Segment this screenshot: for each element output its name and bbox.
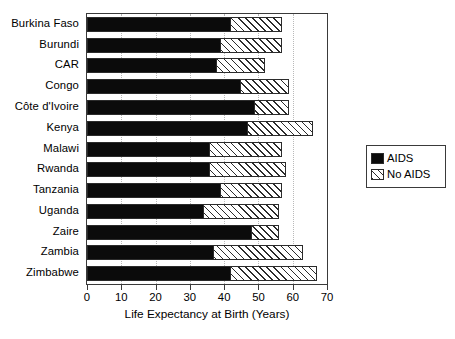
bar-group xyxy=(87,17,327,32)
legend-item-no-aids: No AIDS xyxy=(371,167,440,182)
chart-figure: Burkina FasoBurundiCARCongoCôte d'Ivoire… xyxy=(0,0,455,339)
x-axis-tick-label: 40 xyxy=(218,291,231,304)
x-axis-tick xyxy=(87,285,88,290)
bar-aids xyxy=(87,266,231,281)
bar-group xyxy=(87,100,327,115)
x-axis-tick xyxy=(190,285,191,290)
hatched-swatch-icon xyxy=(371,169,384,180)
bar-group xyxy=(87,142,327,157)
bar-aids xyxy=(87,17,231,32)
plot-inner xyxy=(87,14,327,284)
y-axis-tick-label: Rwanda xyxy=(37,162,79,175)
y-axis-labels: Burkina FasoBurundiCARCongoCôte d'Ivoire… xyxy=(0,13,83,285)
x-axis-tick-label: 20 xyxy=(149,291,162,304)
y-axis-tick-label: Kenya xyxy=(46,121,79,134)
bar-group xyxy=(87,225,327,240)
y-axis-tick-label: Uganda xyxy=(39,204,79,217)
bar-group xyxy=(87,183,327,198)
x-axis-title: Life Expectancy at Birth (Years) xyxy=(86,307,328,321)
y-axis-tick-label: Congo xyxy=(45,79,79,92)
bar-group xyxy=(87,266,327,281)
plot-area xyxy=(86,13,328,285)
y-axis-tick-label: Tanzania xyxy=(33,183,79,196)
x-axis-tick-label: 50 xyxy=(252,291,265,304)
x-axis-tick xyxy=(327,285,328,290)
bar-aids xyxy=(87,183,221,198)
bar-aids xyxy=(87,142,210,157)
bar-aids xyxy=(87,204,204,219)
y-axis-tick-label: Côte d'Ivoire xyxy=(15,100,79,113)
bar-aids xyxy=(87,79,241,94)
bar-aids xyxy=(87,245,214,260)
x-axis-tick-label: 0 xyxy=(84,291,90,304)
x-axis-tick xyxy=(156,285,157,290)
y-axis-tick-label: Zaire xyxy=(53,225,79,238)
bar-group xyxy=(87,38,327,53)
bar-aids xyxy=(87,58,217,73)
bar-aids xyxy=(87,225,252,240)
bar-group xyxy=(87,58,327,73)
bar-group xyxy=(87,79,327,94)
bar-group xyxy=(87,121,327,136)
x-axis-tick xyxy=(224,285,225,290)
x-axis-tick-label: 30 xyxy=(184,291,197,304)
x-axis-tick-label: 10 xyxy=(115,291,128,304)
x-axis-tick xyxy=(293,285,294,290)
legend-item-label: No AIDS xyxy=(387,168,430,181)
bar-group xyxy=(87,245,327,260)
chart-legend: AIDS No AIDS xyxy=(366,145,446,188)
bar-group xyxy=(87,204,327,219)
bar-aids xyxy=(87,121,248,136)
x-axis-tick-label: 60 xyxy=(286,291,299,304)
solid-black-swatch-icon xyxy=(371,153,384,164)
y-axis-tick-label: Burkina Faso xyxy=(11,17,79,30)
bar-aids xyxy=(87,162,210,177)
x-axis: 010203040506070 xyxy=(86,285,328,309)
x-axis-tick xyxy=(258,285,259,290)
bar-aids xyxy=(87,100,255,115)
bar-group xyxy=(87,162,327,177)
y-axis-tick-label: CAR xyxy=(55,58,79,71)
x-axis-tick xyxy=(121,285,122,290)
bar-aids xyxy=(87,38,221,53)
y-axis-tick-label: Burundi xyxy=(39,38,79,51)
y-axis-tick-label: Malawi xyxy=(43,142,79,155)
y-axis-tick-label: Zimbabwe xyxy=(26,266,79,279)
legend-item-aids: AIDS xyxy=(371,151,440,166)
x-axis-tick-label: 70 xyxy=(321,291,334,304)
y-axis-tick-label: Zambia xyxy=(41,245,79,258)
legend-item-label: AIDS xyxy=(387,152,413,165)
